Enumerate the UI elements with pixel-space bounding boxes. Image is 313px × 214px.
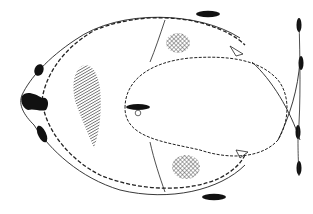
right-marker-stem — [298, 18, 300, 176]
marker-bottom — [202, 194, 226, 200]
center-ring — [135, 110, 141, 116]
black-spot-2 — [21, 93, 48, 111]
marker-center — [126, 104, 150, 110]
bottom-wedge — [236, 150, 248, 158]
marker-top — [196, 11, 220, 17]
hatched-spot-bottom — [172, 155, 200, 179]
hatched-spot-top — [166, 33, 190, 53]
black-spot-3 — [35, 124, 50, 144]
chain-border-bottom — [42, 100, 246, 188]
drawing-canvas — [0, 0, 313, 214]
figure-drawing — [0, 0, 313, 214]
bottom-divider-line — [150, 142, 165, 192]
top-divider-line — [150, 20, 165, 62]
chain-border-top — [42, 18, 245, 100]
top-wedge — [230, 46, 243, 56]
dark-hatched-patch — [74, 65, 101, 148]
right-marker-2 — [299, 56, 304, 70]
